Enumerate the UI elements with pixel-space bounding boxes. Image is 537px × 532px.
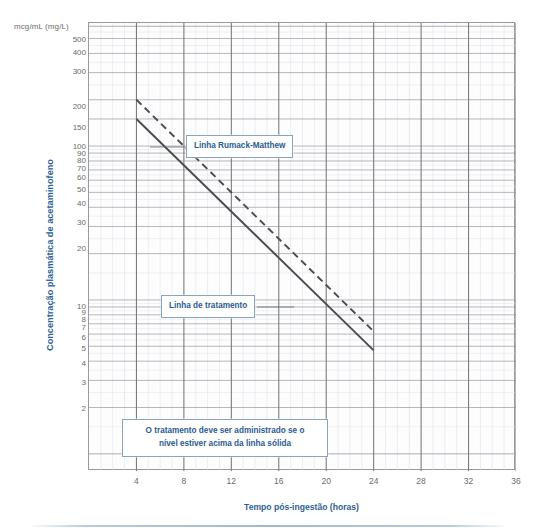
x-tick-12: 12 xyxy=(227,476,236,486)
x-tick-20: 20 xyxy=(321,476,330,486)
y-tick-500: 500 xyxy=(73,34,86,43)
y-tick-5: 5 xyxy=(82,344,86,353)
footer-rule xyxy=(28,525,509,527)
x-tick-16: 16 xyxy=(274,476,283,486)
callout-treatment-note: O tratamento deve ser administrado se o … xyxy=(122,419,328,457)
y-tick-2: 2 xyxy=(82,403,86,412)
y-tick-20: 20 xyxy=(77,244,86,253)
y-tick-150: 150 xyxy=(73,123,86,132)
y-tick-60: 60 xyxy=(77,173,86,182)
y-tick-300: 300 xyxy=(73,67,86,76)
x-tick-24: 24 xyxy=(369,476,378,486)
x-tick-32: 32 xyxy=(464,476,473,486)
x-tick-8: 8 xyxy=(182,476,187,486)
y-tick-70: 70 xyxy=(77,163,86,172)
y-tick-4: 4 xyxy=(82,358,86,367)
plot-area: 5004003002001501009080706050403020109876… xyxy=(88,22,515,470)
note-line-2: nível estiver acima da linha sólida xyxy=(131,438,319,451)
y-tick-400: 400 xyxy=(73,47,86,56)
y-tick-3: 3 xyxy=(82,377,86,386)
callout-treatment-line: Linha de tratamento xyxy=(161,295,255,318)
x-axis-title: Tempo pós-ingestão (horas) xyxy=(88,502,515,512)
note-line-1: O tratamento deve ser administrado se o xyxy=(131,425,319,438)
y-tick-6: 6 xyxy=(82,332,86,341)
y-tick-30: 30 xyxy=(77,218,86,227)
data-lines xyxy=(89,23,516,471)
x-tick-36: 36 xyxy=(511,476,520,486)
x-tick-4: 4 xyxy=(134,476,139,486)
y-axis-units-label: mcg/mL (mg/L) xyxy=(14,22,69,31)
x-tick-28: 28 xyxy=(416,476,425,486)
callout-rumack-matthew: Linha Rumack-Matthew xyxy=(186,135,293,158)
y-tick-40: 40 xyxy=(77,199,86,208)
y-axis-title: Concentração plasmática de acetaminofeno xyxy=(45,159,55,351)
y-tick-7: 7 xyxy=(82,323,86,332)
y-tick-50: 50 xyxy=(77,184,86,193)
rumack-matthew-nomogram: mcg/mL (mg/L) Concentração plasmática de… xyxy=(0,0,537,532)
y-tick-200: 200 xyxy=(73,101,86,110)
